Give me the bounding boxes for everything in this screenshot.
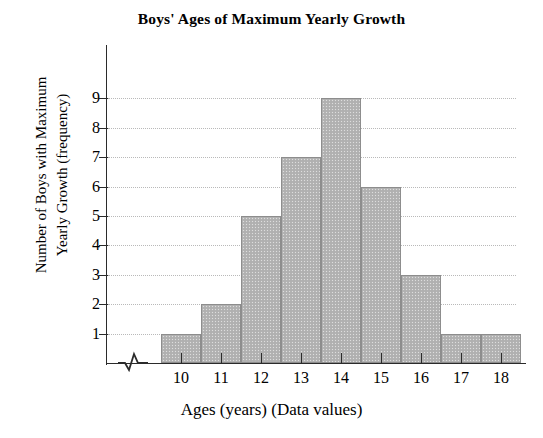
histogram-figure: Boys' Ages of Maximum Yearly Growth Numb… bbox=[0, 0, 543, 438]
y-axis-tick-label: 6 bbox=[74, 179, 100, 195]
histogram-bar bbox=[241, 216, 281, 363]
chart-title: Boys' Ages of Maximum Yearly Growth bbox=[0, 10, 543, 28]
axis-break-icon bbox=[116, 348, 150, 372]
y-axis-line bbox=[106, 45, 107, 365]
y-axis-tick-label: 1 bbox=[74, 326, 100, 342]
y-axis-tick-label: 2 bbox=[74, 296, 100, 312]
histogram-bar bbox=[321, 98, 361, 363]
x-axis-tick-label: 10 bbox=[161, 370, 201, 386]
y-axis-tick-label: 5 bbox=[74, 208, 100, 224]
x-axis-title: Ages (years) (Data values) bbox=[0, 400, 543, 420]
y-axis-tick-label: 9 bbox=[74, 90, 100, 106]
histogram-bar bbox=[281, 157, 321, 363]
y-axis-tick-label: 8 bbox=[74, 120, 100, 136]
x-axis-line bbox=[106, 363, 526, 364]
histogram-bar bbox=[401, 275, 441, 363]
x-axis-tick-label: 12 bbox=[241, 370, 281, 386]
y-axis-title-line-2: Yearly Growth (frequency) bbox=[52, 25, 73, 325]
plot-area: 987654321 101112131415161718 bbox=[106, 60, 526, 365]
y-axis-title-line-1: Number of Boys with Maximum bbox=[31, 25, 52, 325]
y-axis-tick-label: 7 bbox=[74, 149, 100, 165]
x-axis-tick-label: 15 bbox=[361, 370, 401, 386]
gridline bbox=[108, 98, 516, 99]
gridline bbox=[108, 128, 516, 129]
x-axis-tick-label: 13 bbox=[281, 370, 321, 386]
y-axis-tick-label: 3 bbox=[74, 267, 100, 283]
x-axis-tick-label: 18 bbox=[481, 370, 521, 386]
y-axis-title: Number of Boys with Maximum Yearly Growt… bbox=[31, 25, 77, 325]
x-axis-tick-label: 16 bbox=[401, 370, 441, 386]
x-axis-tick-label: 14 bbox=[321, 370, 361, 386]
y-axis-tick-label: 4 bbox=[74, 237, 100, 253]
x-axis-tick-label: 17 bbox=[441, 370, 481, 386]
x-axis-tick-label: 11 bbox=[201, 370, 241, 386]
histogram-bar bbox=[361, 187, 401, 363]
